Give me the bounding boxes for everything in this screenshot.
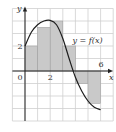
riemann-rectangle	[50, 21, 63, 71]
x-axis-label: x	[109, 73, 114, 82]
origin-label: 0	[18, 73, 23, 82]
riemann-sum-chart: y = f(x) y x 0 2 6 2	[0, 0, 116, 132]
y-axis-label: y	[16, 4, 22, 13]
y-tick-label-2: 2	[18, 42, 23, 51]
x-tick-label-2: 2	[48, 73, 53, 82]
y-axis-arrow-icon	[23, 7, 27, 12]
riemann-rectangle	[38, 27, 51, 71]
riemann-rectangle	[88, 71, 101, 104]
x-tick-label-6: 6	[99, 60, 104, 69]
curve-label: y = f(x)	[72, 36, 103, 45]
riemann-rectangle	[25, 46, 38, 71]
